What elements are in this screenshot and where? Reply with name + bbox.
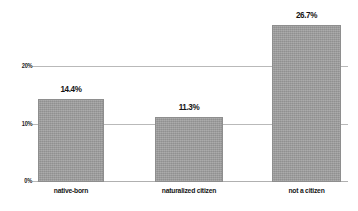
bar-native-born bbox=[38, 99, 104, 182]
value-label-not-a-citizen: 26.7% bbox=[275, 10, 337, 21]
y-axis-tick-label-10: 10% bbox=[21, 120, 32, 128]
tick-mark-20-percent bbox=[32, 66, 37, 67]
value-label-naturalized-citizen: 11.3% bbox=[158, 102, 219, 113]
bar-chart: 20% 10% 0% 14.4% 11.3% 26.7% native-born… bbox=[0, 0, 358, 211]
bar-not-a-citizen bbox=[272, 25, 341, 182]
value-label-native-born: 14.4% bbox=[41, 84, 100, 95]
plot-area: 20% 10% 0% 14.4% 11.3% 26.7% native-born… bbox=[0, 0, 358, 211]
y-axis-tick-label-0: 0% bbox=[24, 177, 32, 185]
category-label-not-a-citizen: not a citizen bbox=[268, 186, 345, 196]
tick-mark-10-percent bbox=[32, 124, 37, 125]
category-label-native-born: native-born bbox=[34, 186, 108, 196]
tick-mark-0-percent bbox=[32, 181, 37, 182]
category-label-naturalized-citizen: naturalized citizen bbox=[150, 186, 227, 196]
bar-naturalized-citizen bbox=[155, 117, 223, 182]
y-axis-tick-label-20: 20% bbox=[21, 62, 32, 70]
